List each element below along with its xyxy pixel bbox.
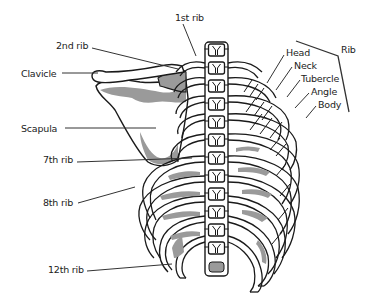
leader-head — [267, 55, 284, 83]
label-tubercle: Tubercle — [301, 74, 339, 84]
intercostal-shading-right — [236, 147, 272, 265]
leader-body — [306, 106, 316, 118]
label-8th-rib: 8th rib — [43, 198, 73, 208]
label-neck: Neck — [294, 61, 317, 71]
label-head: Head — [286, 48, 310, 58]
label-2nd-rib: 2nd rib — [56, 41, 88, 51]
leader-12th-rib — [87, 264, 172, 271]
leader-8th-rib — [78, 187, 135, 203]
label-12th-rib: 12th rib — [48, 265, 84, 275]
label-7th-rib: 7th rib — [43, 155, 73, 165]
vertebral-column — [205, 42, 229, 276]
intercostal-shading-left — [160, 171, 200, 258]
leader-2nd-rib — [92, 48, 178, 69]
leader-neck — [276, 67, 292, 90]
label-rib: Rib — [341, 45, 356, 55]
label-body: Body — [318, 100, 341, 110]
leader-1st-rib — [183, 24, 196, 56]
leader-tubercle — [287, 80, 300, 97]
leader-angle — [295, 93, 309, 108]
label-1st-rib: 1st rib — [175, 13, 204, 23]
label-scapula: Scapula — [21, 124, 57, 134]
label-angle: Angle — [311, 87, 337, 97]
label-clavicle: Clavicle — [21, 69, 56, 79]
